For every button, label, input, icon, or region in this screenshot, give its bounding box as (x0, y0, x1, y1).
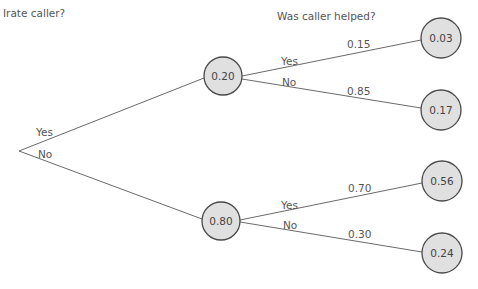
edge-root-yes (19, 78, 204, 151)
leaf-003-value: 0.03 (429, 32, 452, 44)
leaf-node-017: 0.17 (421, 90, 461, 130)
header-irate-caller: Irate caller? (3, 7, 65, 19)
root-yes-label: Yes (35, 126, 53, 138)
node-020-value: 0.20 (211, 70, 234, 82)
probability-tree-diagram: Irate caller? Was caller helped? Yes No … (0, 0, 478, 289)
edge-080-no (240, 222, 422, 252)
node-080: 0.80 (202, 202, 240, 240)
node-080-no-label: No (283, 219, 297, 231)
header-caller-helped: Was caller helped? (277, 10, 376, 22)
node-080-yes-label: Yes (280, 199, 298, 211)
node-020: 0.20 (204, 57, 242, 95)
prob-020-yes: 0.15 (347, 38, 370, 50)
leaf-056-value: 0.56 (430, 175, 454, 187)
edge-root-no (19, 151, 202, 219)
root-no-label: No (38, 148, 52, 160)
prob-080-no: 0.30 (348, 228, 371, 240)
leaf-node-003: 0.03 (421, 18, 461, 58)
edge-020-no (242, 79, 421, 108)
leaf-node-024: 0.24 (422, 233, 462, 273)
node-020-no-label: No (282, 76, 296, 88)
leaf-024-value: 0.24 (430, 247, 454, 259)
edge-020-yes (242, 40, 421, 76)
leaf-017-value: 0.17 (429, 104, 452, 116)
edge-080-yes (240, 183, 422, 220)
prob-020-no: 0.85 (347, 85, 370, 97)
prob-080-yes: 0.70 (348, 182, 371, 194)
leaf-node-056: 0.56 (422, 161, 462, 201)
node-020-yes-label: Yes (280, 55, 298, 67)
node-080-value: 0.80 (209, 215, 232, 227)
